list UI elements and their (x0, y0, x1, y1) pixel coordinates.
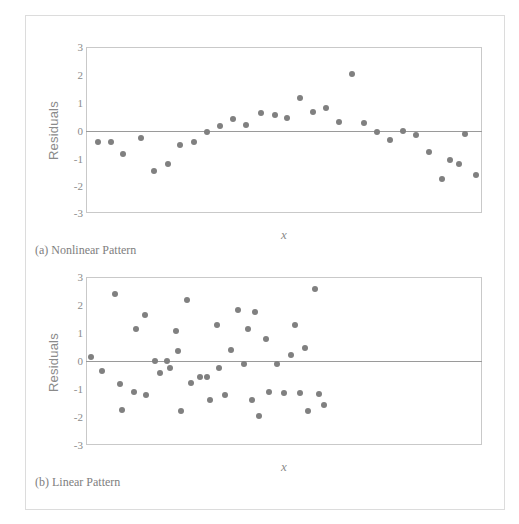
data-point (349, 71, 355, 77)
plot-frame-a (86, 47, 482, 213)
data-point (197, 374, 203, 380)
caption-b: (b) Linear Pattern (35, 475, 120, 490)
zero-reference-line-b (86, 361, 482, 362)
data-point (321, 402, 327, 408)
data-point (297, 390, 303, 396)
data-point (302, 345, 308, 351)
data-point (249, 397, 255, 403)
data-point (473, 172, 479, 178)
ytick-a-m2: -2 (57, 181, 83, 192)
data-point (117, 381, 123, 387)
data-point (191, 139, 197, 145)
data-point (184, 297, 190, 303)
data-point (207, 397, 213, 403)
data-point (323, 105, 329, 111)
data-point (175, 348, 181, 354)
figure-container: 3 2 1 0 -1 -2 -3 Residuals x (a) Nonline… (0, 0, 519, 524)
y-axis-title-b: Residuals (46, 333, 61, 392)
ytick-a-m3: -3 (57, 208, 83, 219)
data-point (112, 291, 118, 297)
data-point (288, 352, 294, 358)
panel-nonlinear-pattern: 3 2 1 0 -1 -2 -3 Residuals x (a) Nonline… (0, 0, 519, 262)
data-point (222, 392, 228, 398)
data-point (245, 326, 251, 332)
data-point (272, 112, 278, 118)
data-point (99, 368, 105, 374)
data-point (439, 176, 445, 182)
data-point (297, 95, 303, 101)
ytick-b-m2: -2 (57, 412, 83, 423)
data-point (284, 115, 290, 121)
data-point (131, 389, 137, 395)
data-point (178, 408, 184, 414)
data-point (426, 149, 432, 155)
data-point (204, 374, 210, 380)
data-point (400, 128, 406, 134)
ytick-a-2: 2 (57, 70, 83, 81)
data-point (119, 407, 125, 413)
data-point (151, 168, 157, 174)
data-point (243, 122, 249, 128)
ytick-a-3: 3 (57, 42, 83, 53)
data-point (214, 322, 220, 328)
data-point (228, 347, 234, 353)
data-point (133, 326, 139, 332)
data-point (305, 408, 311, 414)
data-point (447, 157, 453, 163)
y-axis-title-a: Residuals (46, 101, 61, 160)
data-point (157, 370, 163, 376)
ytick-b-m3: -3 (57, 440, 83, 451)
data-point (165, 161, 171, 167)
data-point (316, 391, 322, 397)
ytick-b-2: 2 (57, 300, 83, 311)
ytick-b-3: 3 (57, 272, 83, 283)
zero-reference-line-a (86, 131, 482, 132)
x-axis-title-b: x (86, 459, 482, 475)
